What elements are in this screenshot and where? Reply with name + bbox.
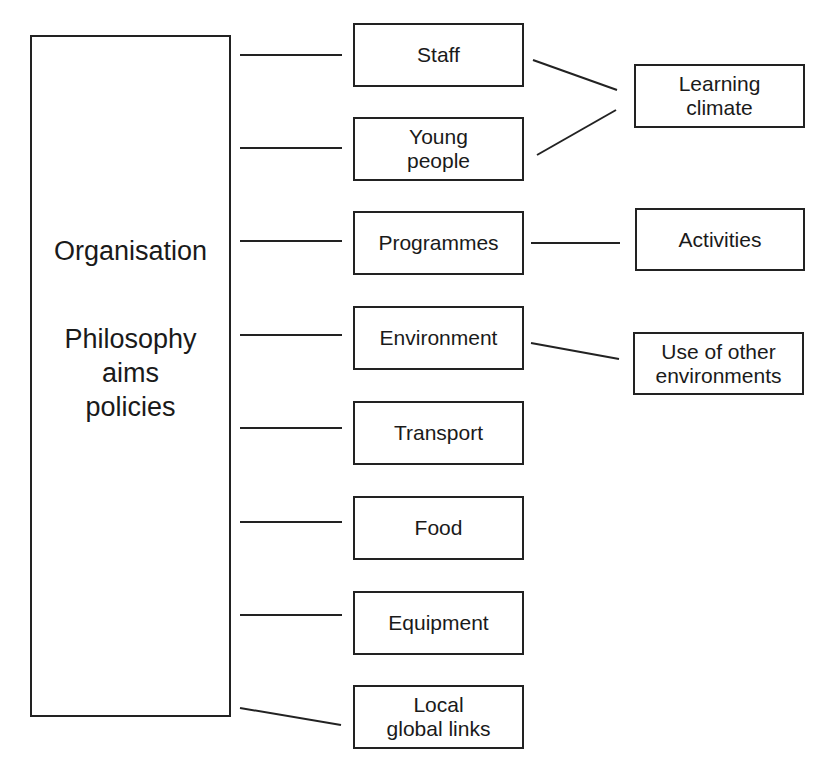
organisation-line-aims: aims [102,356,159,390]
organisation-line-policies: policies [85,390,175,424]
node-environment: Environment [353,306,524,370]
node-food: Food [353,496,524,560]
node-programmes: Programmes [353,211,524,275]
outcome-label-line1: Use of other [661,340,775,364]
outcome-learning-climate: Learning climate [634,64,805,128]
outcome-label-line2: environments [655,364,781,388]
outcome-label-line1: Learning [679,72,761,96]
outcome-label-line2: climate [686,96,753,120]
node-label: Environment [380,326,498,350]
node-young-people: Young people [353,117,524,181]
connector-young-learning [537,110,616,155]
organisation-box: Organisation Philosophy aims policies [30,35,231,717]
organisation-title: Organisation [54,234,207,268]
outcome-use-of-other-environments: Use of other environments [633,332,804,395]
node-label: Food [415,516,463,540]
outcome-label: Activities [679,228,762,252]
node-label-line2: people [407,149,470,173]
node-label: Programmes [378,231,498,255]
node-equipment: Equipment [353,591,524,655]
node-local-global-links: Local global links [353,685,524,749]
node-staff: Staff [353,23,524,87]
node-transport: Transport [353,401,524,465]
organisation-line-philosophy: Philosophy [64,322,196,356]
connector-staff-learning [533,60,617,90]
outcome-activities: Activities [635,208,805,271]
connector-environment-other [531,343,619,359]
node-label: Equipment [388,611,488,635]
node-label-line2: global links [387,717,491,741]
connector-org-local [240,708,341,725]
node-label: Staff [417,43,460,67]
node-label: Transport [394,421,483,445]
node-label-line1: Young [409,125,468,149]
node-label-line1: Local [413,693,463,717]
